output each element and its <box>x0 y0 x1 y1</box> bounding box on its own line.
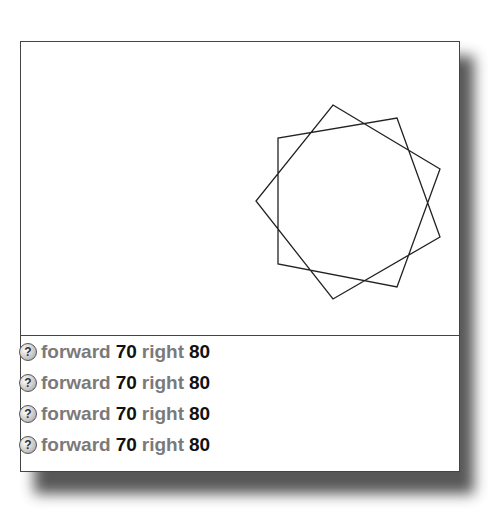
command-keyword: forward <box>41 434 111 456</box>
turtle-drawing <box>21 42 459 335</box>
command-keyword: right <box>142 403 184 425</box>
command-row[interactable]: ? forward 70 right 80 <box>21 400 215 428</box>
command-keyword: forward <box>41 341 111 363</box>
help-question-icon[interactable]: ? <box>19 374 37 392</box>
command-argument: 70 <box>116 341 137 363</box>
turtle-window: ? forward 70 right 80 ? forward 70 right… <box>20 41 460 472</box>
command-keyword: forward <box>41 403 111 425</box>
command-argument: 80 <box>189 434 210 456</box>
help-question-icon[interactable]: ? <box>19 405 37 423</box>
command-keyword: right <box>142 372 184 394</box>
turtle-path-a <box>256 105 440 299</box>
command-listener[interactable]: ? forward 70 right 80 ? forward 70 right… <box>21 336 459 471</box>
command-argument: 70 <box>116 434 137 456</box>
command-keyword: right <box>142 341 184 363</box>
command-argument: 70 <box>116 372 137 394</box>
command-keyword: forward <box>41 372 111 394</box>
command-keyword: right <box>142 434 184 456</box>
command-argument: 70 <box>116 403 137 425</box>
help-question-icon[interactable]: ? <box>19 436 37 454</box>
turtle-graphics-canvas[interactable] <box>21 42 459 336</box>
command-argument: 80 <box>189 341 210 363</box>
command-row[interactable]: ? forward 70 right 80 <box>21 431 215 459</box>
help-question-icon[interactable]: ? <box>19 343 37 361</box>
command-row[interactable]: ? forward 70 right 80 <box>21 369 215 397</box>
command-argument: 80 <box>189 372 210 394</box>
command-argument: 80 <box>189 403 210 425</box>
command-row[interactable]: ? forward 70 right 80 <box>21 338 215 366</box>
